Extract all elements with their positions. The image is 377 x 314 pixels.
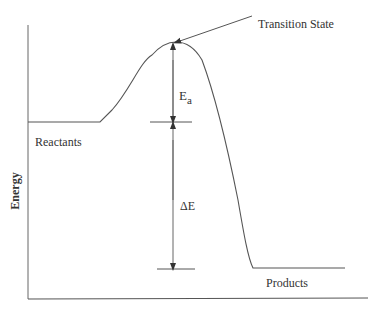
energy-curve [28, 42, 345, 268]
products-label: Products [266, 276, 308, 290]
transition-state-pointer [177, 16, 252, 42]
x-axis [28, 298, 368, 299]
ea-main: E [179, 88, 187, 103]
ea-subscript: a [187, 94, 192, 106]
energy-diagram: Transition State Reactants Products Ea Δ… [0, 0, 377, 314]
y-axis-label: Energy [8, 172, 22, 209]
delta-e-label: ΔE [180, 199, 195, 213]
activation-energy-label: Ea [179, 88, 192, 106]
transition-state-label: Transition State [258, 17, 334, 31]
reactants-label: Reactants [35, 135, 82, 149]
